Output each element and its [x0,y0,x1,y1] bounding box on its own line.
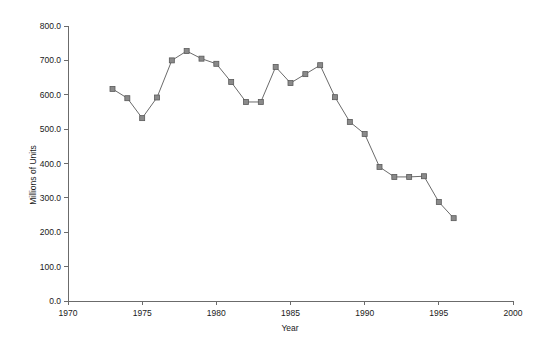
y-tick-label: 800.0 [40,21,62,31]
data-point-marker [184,49,189,54]
y-tick-label: 400.0 [40,159,62,169]
x-axis-title: Year [281,323,298,333]
x-tick-label: 2000 [504,308,523,318]
data-point-marker [125,96,130,101]
data-point-marker [110,86,115,91]
x-tick-label: 1995 [429,308,448,318]
y-tick-label: 0.0 [49,296,61,306]
data-point-marker [169,58,174,63]
x-tick-label: 1990 [355,308,374,318]
data-point-marker [422,174,427,179]
x-tick-label: 1975 [133,308,152,318]
x-tick-label: 1970 [59,308,78,318]
data-point-marker [392,174,397,179]
data-point-marker [199,56,204,61]
data-point-marker [258,99,263,104]
data-point-marker [362,131,367,136]
chart-figure: 0.0100.0200.0300.0400.0500.0600.0700.080… [0,0,535,352]
data-point-marker [273,64,278,69]
y-axis: 0.0100.0200.0300.0400.0500.0600.0700.080… [40,21,68,306]
y-axis-title: Millions of Units [28,145,38,205]
data-point-marker [377,164,382,169]
y-tick-label: 200.0 [40,227,62,237]
x-axis: 1970197519801985199019952000 [59,301,523,318]
data-point-marker [214,61,219,66]
y-tick-label: 700.0 [40,55,62,65]
line-chart-plot: 0.0100.0200.0300.0400.0500.0600.0700.080… [0,0,535,352]
series-line-units [113,51,454,218]
data-series-units [110,49,456,221]
x-tick-label: 1980 [207,308,226,318]
data-point-marker [347,119,352,124]
y-tick-label: 600.0 [40,90,62,100]
x-tick-label: 1985 [281,308,300,318]
data-point-marker [303,72,308,77]
data-point-marker [155,95,160,100]
y-tick-label: 300.0 [40,193,62,203]
data-point-marker [288,81,293,86]
data-point-marker [318,63,323,68]
data-point-marker [436,200,441,205]
data-point-marker [140,116,145,121]
data-point-marker [333,95,338,100]
data-point-marker [244,99,249,104]
y-tick-label: 500.0 [40,124,62,134]
data-point-marker [451,216,456,221]
data-point-marker [407,174,412,179]
data-point-marker [229,80,234,85]
y-tick-label: 100.0 [40,262,62,272]
